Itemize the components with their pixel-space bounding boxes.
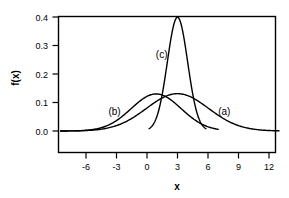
curve-label-c: (c) [156, 49, 168, 60]
y-axis-ticks [53, 17, 59, 131]
y-tick-label-3: 0.3 [35, 41, 48, 51]
y-tick-label-2: 0.2 [35, 70, 48, 80]
plot-frame [59, 17, 276, 153]
y-axis-tick-labels: 0.4 0.3 0.2 0.1 0.0 [35, 13, 48, 137]
y-tick-label-4: 0.4 [35, 13, 48, 23]
x-tick-label-0: -6 [82, 162, 90, 172]
y-axis-title: f(x) [10, 70, 21, 86]
x-tick-label-3: 3 [175, 162, 180, 172]
x-tick-label-6: 12 [264, 162, 274, 172]
curve-c [149, 17, 206, 128]
x-tick-label-1: -3 [112, 162, 120, 172]
x-tick-label-4: 6 [205, 162, 210, 172]
y-tick-label-0: 0.0 [35, 127, 48, 137]
curve-label-a: (a) [218, 106, 230, 117]
x-tick-label-5: 9 [236, 162, 241, 172]
y-tick-label-1: 0.1 [35, 98, 48, 108]
x-tick-label-2: 0 [144, 162, 149, 172]
chart-figure: 0.4 0.3 0.2 0.1 0.0 f(x) -6 -3 0 3 6 9 1… [0, 0, 289, 198]
plot-area: 0.4 0.3 0.2 0.1 0.0 f(x) -6 -3 0 3 6 9 1… [0, 0, 289, 198]
curve-label-b: (b) [108, 106, 120, 117]
x-axis-title: x [174, 181, 180, 192]
data-curves [61, 17, 280, 131]
x-axis-tick-labels: -6 -3 0 3 6 9 12 [82, 162, 274, 172]
x-axis-ticks [86, 153, 269, 159]
